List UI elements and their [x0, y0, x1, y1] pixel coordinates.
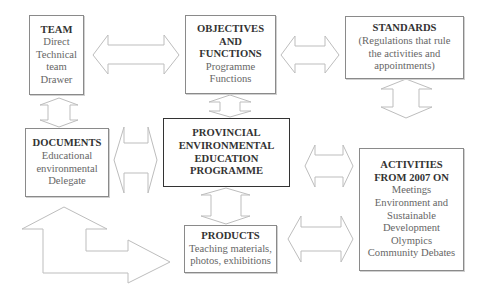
node-activities-title: FROM 2007 ON — [374, 172, 449, 185]
node-team-line: team — [46, 61, 67, 74]
arrow-documents-provincial — [114, 127, 157, 193]
node-objectives: OBJECTIVES AND FUNCTIONS Programme Funct… — [185, 15, 276, 94]
node-team-line: Direct — [43, 36, 69, 49]
node-provincial-title: ENVIRONMENTAL — [179, 140, 275, 153]
node-standards-line: the activities and — [369, 48, 441, 61]
arrow-provincial-products — [201, 188, 250, 224]
arrow-team-documents — [40, 98, 78, 127]
node-provincial-title: EDUCATION — [195, 153, 259, 166]
node-products-line: photos, exhibitions — [190, 255, 271, 268]
node-documents-line: Delegate — [48, 175, 86, 188]
arrow-products-activities — [288, 216, 353, 262]
node-objectives-title: AND — [219, 36, 242, 49]
node-documents-title: DOCUMENTS — [33, 137, 102, 150]
node-objectives-title: FUNCTIONS — [199, 48, 261, 61]
node-documents-line: Educational — [42, 150, 93, 163]
node-products-title: PRODUCTS — [201, 230, 259, 243]
node-standards: STANDARDS (Regulations that rule the act… — [345, 16, 464, 79]
node-documents: DOCUMENTS Educational environmental Dele… — [25, 128, 109, 197]
node-objectives-line: Programme — [206, 61, 255, 74]
arrow-provincial-activities — [305, 145, 353, 187]
node-activities: ACTIVITIES FROM 2007 ON Meetings Environ… — [359, 148, 464, 271]
node-activities-line: Environment and — [375, 197, 448, 210]
node-objectives-title: OBJECTIVES — [197, 23, 264, 36]
node-activities-line: Sustainable — [387, 210, 436, 223]
node-activities-line: Meetings — [392, 184, 431, 197]
node-standards-line: appointments) — [374, 60, 435, 73]
arrow-standards-activities — [381, 79, 432, 118]
arrow-documents-products-bent — [22, 207, 170, 283]
node-documents-line: environmental — [36, 163, 97, 176]
node-activities-line: Development — [383, 222, 440, 235]
node-activities-line: Community Debates — [368, 247, 455, 260]
node-team-title: TEAM — [41, 24, 73, 37]
arrow-team-objectives — [93, 35, 179, 74]
node-activities-title: ACTIVITIES — [380, 159, 442, 172]
arrow-objectives-standards — [281, 36, 339, 73]
node-provincial-programme: PROVINCIAL ENVIRONMENTAL EDUCATION PROGR… — [163, 118, 290, 187]
node-team-line: Technical — [36, 49, 77, 62]
node-activities-line: Olympics — [391, 235, 432, 248]
node-standards-line: (Regulations that rule — [359, 35, 451, 48]
node-team-line: Drawer — [41, 74, 73, 87]
node-standards-title: STANDARDS — [373, 22, 437, 35]
node-products-line: Teaching materials, — [189, 243, 272, 256]
node-products: PRODUCTS Teaching materials, photos, exh… — [184, 225, 277, 273]
node-objectives-line: Functions — [210, 73, 252, 86]
arrow-objectives-provincial — [209, 95, 251, 117]
node-provincial-title: PROVINCIAL — [192, 127, 260, 140]
node-team: TEAM Direct Technical team Drawer — [29, 15, 84, 95]
node-provincial-title: PROGRAMME — [190, 165, 263, 178]
